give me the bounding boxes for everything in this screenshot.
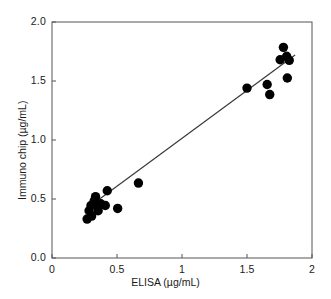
data-point xyxy=(242,83,251,92)
data-point xyxy=(279,43,288,52)
regression-line xyxy=(88,55,295,208)
x-tick-label: 2 xyxy=(292,263,331,275)
x-axis-title: ELISA (µg/mL) xyxy=(0,276,331,288)
plot-canvas xyxy=(0,0,331,299)
data-point xyxy=(285,56,294,65)
data-point xyxy=(134,178,143,187)
data-point xyxy=(113,204,122,213)
y-axis-title: Immuno chip (µg/mL) xyxy=(16,101,28,200)
x-tick-label: 0.5 xyxy=(97,263,137,275)
plot-frame xyxy=(52,22,312,258)
y-tick-label: 1.5 xyxy=(16,74,46,86)
axis-ticks xyxy=(52,22,312,258)
x-tick-label: 1 xyxy=(162,263,202,275)
y-tick-label: 2.0 xyxy=(16,15,46,27)
x-tick-label: 0 xyxy=(32,263,72,275)
x-tick-label: 1.5 xyxy=(227,263,267,275)
data-point xyxy=(262,80,271,89)
y-tick-label: 0.0 xyxy=(16,251,46,263)
data-point xyxy=(265,90,274,99)
data-point xyxy=(103,186,112,195)
data-point xyxy=(283,73,292,82)
scatter-plot-figure: 0.00.51.01.52.0 00.511.52 ELISA (µg/mL) … xyxy=(0,0,331,299)
data-point xyxy=(101,201,110,210)
